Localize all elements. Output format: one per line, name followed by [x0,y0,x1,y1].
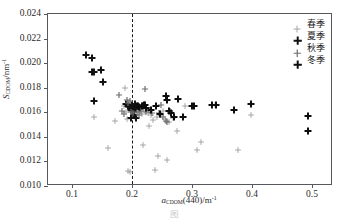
data-point [304,112,312,120]
legend-marker-plus-icon [293,19,304,30]
y-tick-label: 0.014 [20,132,41,142]
legend: 春季夏季秋季冬季 [291,17,328,68]
y-tick-label: 0.024 [20,9,41,19]
legend-item-label: 春季 [307,20,325,29]
x-tick-mark [312,184,313,188]
y-axis-label-exponent: -1 [1,59,7,64]
legend-marker-plus-icon [293,55,304,66]
data-point [190,102,198,110]
data-point [99,77,107,85]
figure-container: SCDOM/nm-1 aCDOM(440)/m-1 0.0100.0120.01… [0,0,348,220]
y-axis-label-symbol: S [1,95,11,100]
data-point [230,106,238,114]
legend-item-label: 夏季 [307,32,325,41]
y-tick-mark [44,186,48,187]
data-point [247,100,255,108]
x-tick-mark [72,184,73,188]
data-point [170,112,178,120]
data-point [212,101,220,109]
y-tick-label: 0.012 [20,157,41,167]
data-point [198,139,205,146]
y-tick-label: 0.020 [20,58,41,68]
y-tick-label: 0.016 [20,108,41,118]
y-axis-label: SCDOM/nm-1 [2,59,12,99]
data-point [151,166,158,173]
legend-marker-plus-icon [293,43,304,54]
data-point [156,109,164,117]
data-point [248,111,255,118]
data-point [126,97,133,104]
y-axis-label-subscript: CDOM [5,78,11,95]
x-tick-label: 0.4 [246,190,258,200]
x-tick-label: 0.2 [126,190,138,200]
y-axis-label-unit: /nm [1,64,11,78]
x-tick-mark [132,184,133,188]
data-point [234,147,241,154]
data-point [163,96,171,104]
legend-item[interactable]: 夏季 [293,31,325,42]
plot-area [48,14,331,184]
data-point [141,85,148,92]
data-point [127,169,134,176]
data-point [174,95,182,103]
data-point [115,91,122,98]
data-point [88,54,96,62]
x-tick-label: 0.1 [66,190,78,200]
y-tick-label: 0.022 [20,34,41,44]
data-point [97,66,105,74]
figure-caption: 图 [170,210,179,219]
data-point [120,110,127,117]
y-tick-label: 0.010 [20,181,41,191]
data-point [152,101,160,109]
data-point [105,144,112,151]
data-point [91,114,98,121]
x-axis-label-exponent: -1 [212,195,217,201]
legend-item-label: 秋季 [307,44,325,53]
data-point [140,142,147,149]
x-tick-mark [192,184,193,188]
legend-marker-plus-icon [293,31,304,42]
legend-item-label: 冬季 [307,56,325,65]
plot-frame: 0.0100.0120.0140.0160.0180.0200.0220.024… [47,13,332,185]
data-point [90,97,98,105]
x-axis-label-subscript: CDOM [166,199,183,205]
data-point [174,128,181,135]
y-tick-label: 0.018 [20,83,41,93]
data-point [179,113,187,121]
x-tick-label: 0.5 [306,190,318,200]
x-tick-label: 0.3 [186,190,198,200]
legend-item[interactable]: 冬季 [293,55,325,66]
x-tick-mark [252,184,253,188]
legend-item[interactable]: 秋季 [293,43,325,54]
data-point [304,127,312,135]
data-point [112,117,119,124]
data-point [163,156,170,163]
legend-item[interactable]: 春季 [293,19,325,30]
data-point [193,147,200,154]
data-point [154,153,161,160]
